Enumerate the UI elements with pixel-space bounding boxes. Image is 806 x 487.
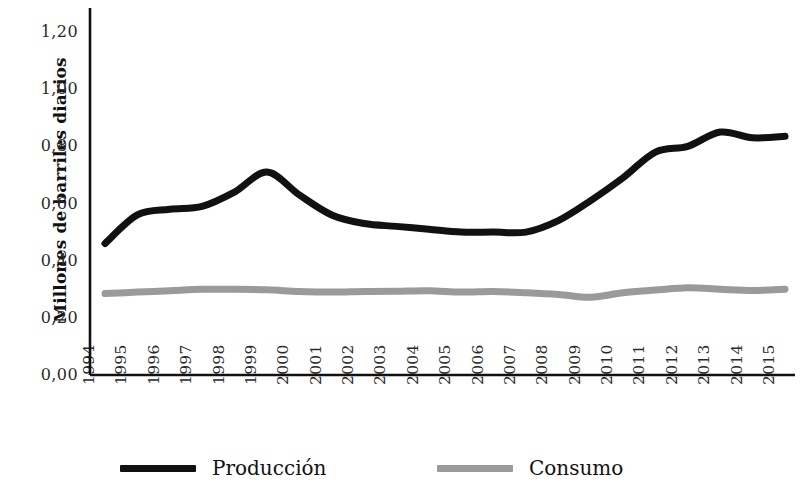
line-chart: Millones de barriles diarios 0,000,200,4… (0, 0, 806, 487)
legend-swatch-consumo (437, 465, 513, 472)
legend-item-consumo: Consumo (437, 452, 623, 484)
axis-lines (90, 8, 795, 375)
legend-swatch-produccion (120, 465, 196, 472)
series-line-consumo (105, 288, 785, 297)
series-line-produccion (105, 132, 785, 244)
series-lines (105, 132, 785, 297)
legend-label-consumo: Consumo (529, 457, 623, 479)
chart-legend: Producción Consumo (0, 452, 806, 487)
legend-item-produccion: Producción (120, 452, 326, 484)
legend-label-produccion: Producción (212, 457, 326, 479)
plot-area (0, 0, 806, 487)
